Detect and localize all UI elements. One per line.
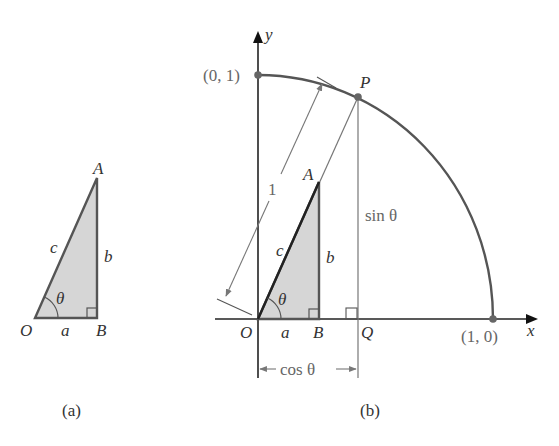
sin-theta-label: sin θ [365, 206, 397, 225]
right-angle-marker-q [346, 308, 357, 319]
y-axis-arrow-icon [253, 31, 263, 43]
figure-b: 1 cos θ y x (0, 1) (1, 0) P Q O A B c b … [203, 25, 538, 420]
side-b-label-b: b [326, 248, 335, 267]
y-axis-label: y [263, 25, 273, 44]
radius-dimension-line-upper [281, 84, 322, 174]
side-c-label-b: c [276, 241, 284, 260]
origin-label: O [240, 323, 252, 342]
angle-theta-label-b: θ [278, 290, 286, 309]
caption-a: (a) [62, 401, 81, 420]
side-c-label: c [50, 238, 58, 257]
cos-theta-label: cos θ [280, 360, 315, 379]
side-b-label: b [104, 247, 113, 266]
point-0-1 [254, 71, 262, 79]
figure-a: A O B c b a θ (a) [20, 159, 113, 420]
trig-diagram: A O B c b a θ (a) 1 [0, 0, 559, 446]
point-1-0 [489, 315, 497, 323]
side-a-label-b: a [281, 323, 290, 342]
point-p [354, 93, 362, 101]
radius-label: 1 [268, 180, 277, 199]
side-a-label: a [61, 321, 70, 340]
angle-theta-label: θ [56, 289, 64, 308]
point-p-label: P [359, 73, 370, 92]
vertex-b-label-b: B [313, 323, 324, 342]
vertex-a-label: A [92, 159, 104, 178]
x-axis-label: x [526, 321, 535, 340]
vertex-b-label: B [96, 321, 107, 340]
point-1-0-label: (1, 0) [461, 327, 498, 346]
radius-dimension-cap-bottom [217, 299, 252, 315]
point-0-1-label: (0, 1) [203, 66, 240, 85]
vertex-o-label: O [20, 321, 32, 340]
radius-dimension-line-lower [226, 201, 269, 296]
point-q-label: Q [361, 323, 373, 342]
vertex-a-label-b: A [302, 165, 314, 184]
caption-b: (b) [360, 401, 380, 420]
